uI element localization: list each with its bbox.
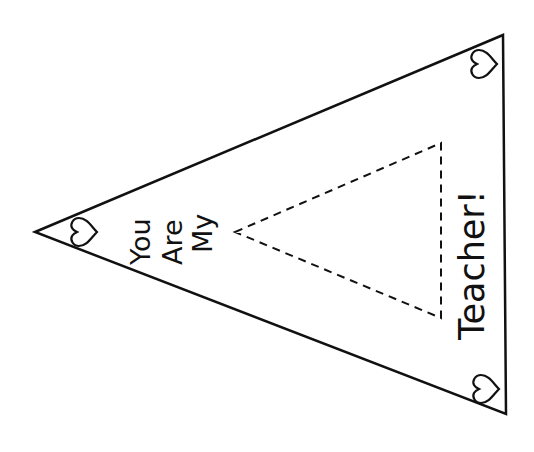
cutout-dashed-triangle[interactable] — [235, 143, 441, 318]
heart-icon-left — [71, 218, 97, 246]
text-my: My — [187, 214, 218, 253]
pennant-artwork: You Are My Teacher! — [0, 0, 534, 452]
heart-icon-top-right — [471, 50, 497, 78]
pennant-outline — [35, 35, 506, 414]
heart-icon-bottom-right — [473, 375, 499, 403]
text-teacher: Teacher! — [452, 190, 492, 341]
text-are: Are — [157, 219, 188, 265]
text-you: You — [125, 218, 156, 266]
